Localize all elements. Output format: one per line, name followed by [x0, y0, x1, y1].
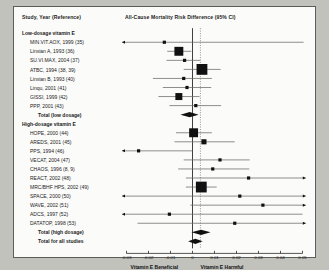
study-row-label: Linxian B, 1993 (40) [30, 76, 75, 82]
summary-row-label: Total (low dosage) [38, 112, 82, 118]
study-row-label: SU.VI.MAX, 2004 (37) [30, 57, 79, 63]
study-row-label: VECAT, 2004 (47) [30, 157, 70, 163]
study-row-label: WAVE, 2002 (51) [30, 202, 68, 208]
study-row-label: SPACE, 2000 (50) [30, 193, 71, 199]
x-axis-tick-label: 0.05 [289, 255, 317, 260]
study-row-label: ATBC, 1994 (38, 39) [30, 67, 76, 73]
study-row-label: MRC/BHF HPS, 2002 (49) [30, 184, 89, 190]
study-row-label: HOPE, 2000 (44) [30, 130, 68, 136]
summary-row-label: Total (high dosage) [38, 229, 84, 235]
study-row-label: PPS, 1994 (46) [30, 148, 64, 154]
study-row-label: CHAOS, 1996 (8, 9) [30, 166, 75, 172]
study-row-label: REACT, 2002 (48) [30, 175, 71, 181]
study-row-label: DATATOP, 1998 (53) [30, 220, 76, 226]
study-row-label: PPP, 2001 (43) [30, 103, 64, 109]
column-header-study: Study, Year (Reference) [22, 14, 81, 20]
summary-row-label: Total for all studies [38, 238, 83, 244]
study-row-label: Linqu, 2001 (41) [30, 85, 66, 91]
study-row-label: GISSI, 1999 (42) [30, 94, 68, 100]
forest-plot-screenshot: Study, Year (Reference) All-Cause Mortal… [0, 0, 329, 270]
study-row-label: MIN.VIT.AOX, 1999 (35) [30, 39, 84, 45]
footer-label-harmful: Vitamin E Harmful [201, 264, 244, 270]
group-heading: High-dosage vitamin E [22, 121, 76, 127]
study-row-label: ADCS, 1997 (52) [30, 211, 68, 217]
study-row-label: AREDS, 2001 (45) [30, 139, 71, 145]
group-heading: Low-dosage vitamin E [22, 30, 75, 36]
study-row-label: Linxian A, 1993 (36) [30, 48, 74, 54]
footer-label-beneficial: Vitamin E Beneficial [131, 264, 179, 270]
column-header-title: All-Cause Mortality Risk Difference (95%… [125, 14, 236, 20]
